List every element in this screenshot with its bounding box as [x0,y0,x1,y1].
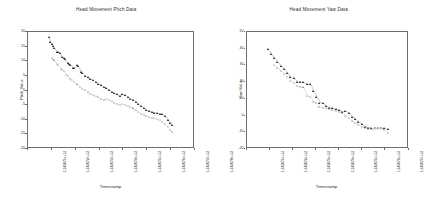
yaw-y-tick-label: 20 [230,79,244,83]
yaw-filled-marker [302,81,304,83]
yaw-open-marker [377,127,379,129]
pitch-filled-marker [167,119,169,121]
pitch-open-marker [164,123,166,125]
y-tick-mark [25,104,27,105]
yaw-open-marker [344,115,346,117]
y-tick-mark [244,31,246,32]
y-tick-mark [25,46,27,47]
yaw-open-marker [354,122,356,124]
x-tick-mark [292,148,293,150]
x-tick-label: 1.342071e+12 [63,151,67,185]
yaw-filled-marker [280,65,282,67]
yaw-filled-marker [312,90,314,92]
pitch-y-tick-label: 10 [11,58,25,62]
pitch-y-tick-label: -15 [11,131,25,135]
pitch-filled-marker [48,36,50,38]
yaw-open-marker [315,102,317,104]
yaw-open-marker [364,127,366,129]
y-tick-mark [25,90,27,91]
x-tick-mark [315,148,316,150]
pitch-y-tick-label: -10 [11,117,25,121]
x-tick-label: 1.342071e+12 [281,151,285,185]
pitch-y-tick-label: 5 [11,73,25,77]
yaw-open-marker [374,127,376,129]
yaw-open-marker [299,86,301,88]
yaw-open-marker [335,110,337,112]
pitch-open-marker [57,64,59,66]
x-tick-label: 1.342077e+12 [420,151,424,185]
pitch-open-marker [63,70,65,72]
x-tick-mark [338,148,339,150]
y-tick-mark [25,133,27,134]
y-tick-mark [244,115,246,116]
yaw-filled-marker [344,110,346,112]
y-tick-mark [25,75,27,76]
yaw-open-marker [351,120,353,122]
pitch-filled-marker [73,67,75,69]
yaw-open-marker [280,70,282,72]
y-tick-mark [25,60,27,61]
yaw-open-marker [370,128,372,130]
x-tick-mark [99,148,100,150]
yaw-open-marker [367,128,369,130]
pitch-filled-marker [164,115,166,117]
yaw-y-tick-label: 0 [230,113,244,117]
pitch-chart-title: Head Movement Pitch Data [0,7,213,12]
yaw-open-marker [322,107,324,109]
x-tick-label: 1.342075e+12 [374,151,378,185]
pitch-filled-marker [64,58,66,60]
yaw-filled-marker [289,76,291,78]
yaw-filled-marker [357,121,359,123]
yaw-filled-marker [270,53,272,55]
pitch-filled-marker [69,64,71,66]
x-tick-label: 1.342073e+12 [327,151,331,185]
yaw-filled-marker [351,116,353,118]
x-tick-mark [75,148,76,150]
pitch-open-marker [167,126,169,128]
yaw-filled-marker [387,128,389,130]
pitch-filled-marker [77,65,79,67]
pitch-open-marker [53,59,55,61]
yaw-y-tick-label: -20 [230,146,244,150]
x-tick-label: 1.342076e+12 [397,151,401,185]
yaw-filled-marker [309,83,311,85]
yaw-filled-marker [286,72,288,74]
yaw-filled-marker [273,57,275,59]
yaw-open-marker [296,85,298,87]
pitch-y-tick-label: -20 [11,146,25,150]
yaw-open-marker [289,80,291,82]
yaw-open-marker [318,106,320,108]
yaw-y-tick-label: 10 [230,96,244,100]
yaw-open-marker [348,117,350,119]
x-tick-label: 1.342076e+12 [182,151,186,185]
yaw-filled-marker [318,102,320,104]
yaw-y-tick-label: 40 [230,46,244,50]
yaw-open-marker [361,126,363,128]
x-tick-label: 1.342074e+12 [134,151,138,185]
yaw-y-tick-label: 50 [230,29,244,33]
yaw-filled-marker [276,61,278,63]
x-tick-mark [122,148,123,150]
yaw-open-marker [383,129,385,131]
yaw-open-marker [312,101,314,103]
x-tick-label: 1.342075e+12 [158,151,162,185]
yaw-panel: Head Movement Yaw Data Yaw Value Timesta… [213,0,425,198]
y-tick-mark [25,31,27,32]
yaw-filled-marker [293,77,295,79]
yaw-filled-marker [322,102,324,104]
y-tick-mark [244,81,246,82]
x-tick-mark [170,148,171,150]
yaw-open-marker [306,95,308,97]
head-movement-figure: Head Movement Pitch Data Pitch Value Tim… [0,0,425,198]
pitch-filled-marker [53,47,55,49]
yaw-filled-marker [354,118,356,120]
y-tick-mark [244,48,246,49]
pitch-y-tick-label: 20 [11,29,25,33]
x-tick-mark [51,148,52,150]
yaw-filled-marker [315,96,317,98]
y-tick-mark [25,119,27,120]
x-tick-label: 1.342072e+12 [86,151,90,185]
pitch-filled-marker [81,72,83,74]
yaw-filled-marker [306,83,308,85]
pitch-y-tick-label: 0 [11,88,25,92]
